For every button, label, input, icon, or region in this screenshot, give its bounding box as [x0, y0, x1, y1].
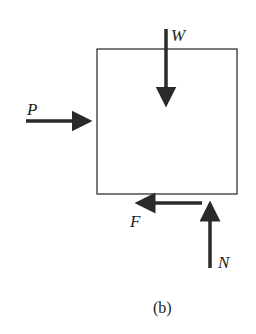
force-p-label: P — [26, 100, 37, 119]
force-w-label: W — [171, 26, 187, 45]
force-n-label: N — [217, 253, 231, 272]
free-body-diagram: W P F N (b) — [0, 0, 256, 334]
figure-caption: (b) — [153, 299, 172, 317]
force-f-label: F — [129, 212, 141, 231]
